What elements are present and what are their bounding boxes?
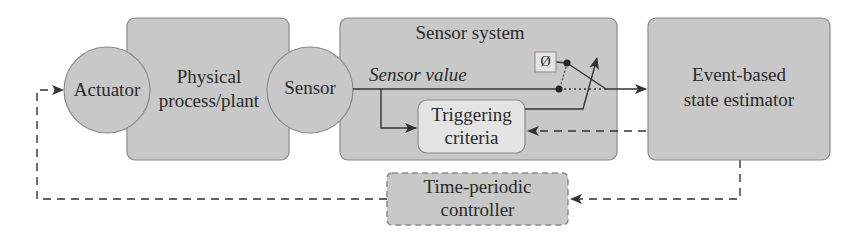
switch-node-lower [556,86,563,93]
estimator-label-line1: Event-based [648,64,830,86]
sensor-value-label: Sensor value [362,64,489,86]
actuator-input-arrowhead [52,85,64,95]
plant-label-line2: process/plant [142,90,276,112]
sensor-label: Sensor [270,77,350,99]
plant-block [127,18,289,160]
empty-set-label: Ø [535,52,556,72]
estimator-label-line2: state estimator [648,89,830,111]
plant-label-line1: Physical [150,66,268,88]
sensor-system-title: Sensor system [400,22,540,44]
switch-node-upper [564,60,571,67]
actuator-label: Actuator [64,79,150,101]
controller-label-line2: controller [387,199,568,221]
estimator-to-controller-edge [572,160,740,199]
triggering-label-line2: criteria [418,127,525,149]
triggering-label-line1: Triggering [418,104,525,126]
controller-label-line1: Time-periodic [387,176,568,198]
